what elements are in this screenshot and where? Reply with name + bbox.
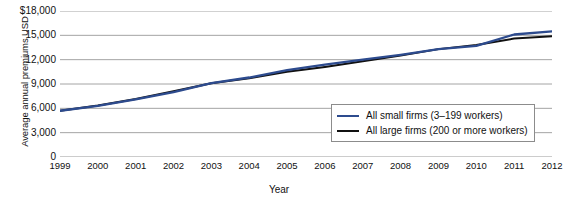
y-axis-tick-labels: 03,0006,0009,00012,00015,000$18,000: [0, 0, 58, 206]
x-axis-tick-label: 2004: [239, 160, 260, 172]
y-axis-tick-label: 15,000: [25, 30, 56, 40]
x-axis-tick-label: 2007: [352, 160, 373, 172]
x-axis-tick-label: 2012: [541, 160, 562, 172]
x-axis-title: Year: [0, 184, 558, 195]
y-axis-tick-label: 6,000: [31, 103, 56, 113]
y-axis-tick-label: 9,000: [31, 79, 56, 89]
legend-label-small-firms: All small firms (3–199 workers): [366, 110, 503, 121]
legend-swatch-small-firms: [337, 115, 359, 117]
x-axis-tick-label: 2003: [201, 160, 222, 172]
y-axis-tick-label: 12,000: [25, 55, 56, 65]
legend-item: All small firms (3–199 workers): [337, 108, 528, 123]
x-axis-tick-label: 2002: [163, 160, 184, 172]
legend-swatch-large-firms: [337, 130, 359, 132]
x-axis-tick-label: 2006: [314, 160, 335, 172]
x-axis-tick-label: 1999: [49, 160, 70, 172]
y-axis-tick-label: 3,000: [31, 128, 56, 138]
legend-item: All large firms (200 or more workers): [337, 123, 528, 138]
x-axis-tick-label: 2010: [466, 160, 487, 172]
x-axis-tick-label: 2011: [504, 160, 524, 172]
x-axis-tick-label: 2005: [277, 160, 298, 172]
x-axis-tick-label: 2008: [390, 160, 411, 172]
series-lines: [60, 31, 552, 110]
series-line: [60, 31, 552, 110]
chart-legend: All small firms (3–199 workers) All larg…: [331, 104, 535, 142]
x-axis-tick-label: 2009: [428, 160, 449, 172]
x-axis-tick-label: 2001: [125, 160, 146, 172]
legend-label-large-firms: All large firms (200 or more workers): [366, 125, 528, 136]
x-axis-tick-labels: 1999200020012002200320042005200620072008…: [60, 160, 552, 176]
y-axis-tick-label: $18,000: [20, 6, 56, 16]
x-axis-tick-label: 2000: [87, 160, 108, 172]
